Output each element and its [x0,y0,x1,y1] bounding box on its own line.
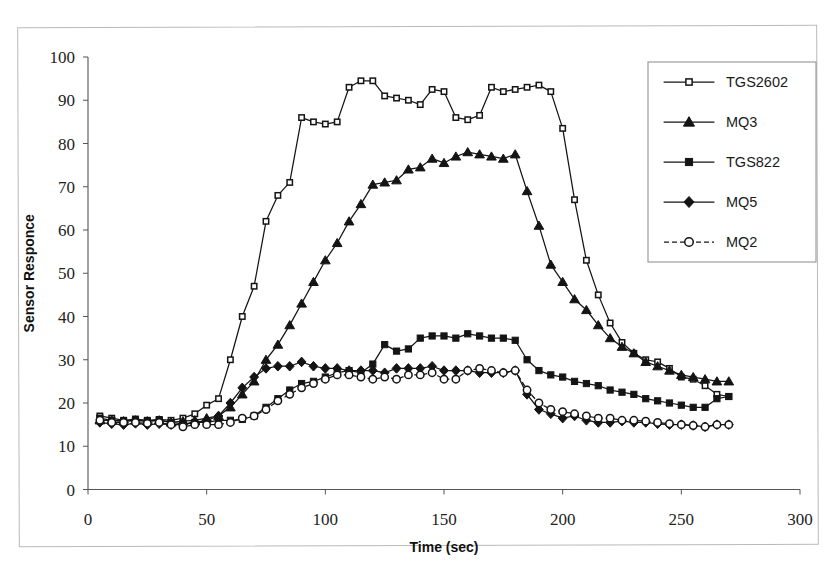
data-point [369,376,376,383]
data-point [488,335,494,341]
data-point [714,396,720,402]
sensor-response-chart: 0102030405060708090100 05010015020025030… [0,0,832,579]
data-point [415,163,425,171]
data-point [394,95,399,100]
y-tick-label: 80 [58,135,75,154]
data-point [381,373,388,380]
data-point [441,333,447,339]
data-point [572,197,577,202]
legend-label: MQ5 [726,194,757,210]
data-point [513,87,518,92]
legend-marker-open-square [686,79,692,85]
data-point [382,93,387,98]
data-point [167,421,174,428]
data-point [451,366,460,376]
data-point [500,335,506,341]
data-point [702,404,708,410]
data-point [156,419,163,426]
data-point [713,421,720,428]
data-point [547,406,554,413]
legend-label: TGS2602 [726,74,788,90]
data-point [510,150,520,158]
data-point [392,364,401,374]
data-point [250,412,257,419]
data-point [132,419,139,426]
data-point [606,414,613,421]
data-point [108,419,115,426]
x-tick-labels: 050100150200250300 [84,510,813,529]
data-point [524,357,530,363]
y-tick-label: 0 [67,481,76,500]
data-point [643,396,649,402]
data-point [429,87,434,92]
data-point [345,371,352,378]
data-point [536,82,541,87]
data-point [393,376,400,383]
data-point [274,397,281,404]
data-point [619,389,625,395]
data-point [440,376,447,383]
data-point [357,373,364,380]
data-point [120,419,127,426]
data-point [477,113,482,118]
data-point [215,421,222,428]
data-point [286,391,293,398]
data-point [631,391,637,397]
x-tick-label: 250 [669,510,695,529]
data-point [630,417,637,424]
y-tick-label: 50 [58,264,75,283]
data-point [464,367,471,374]
data-point [358,78,363,83]
data-point [441,89,446,94]
data-point [216,396,221,401]
data-point [275,193,280,198]
data-point [618,417,625,424]
data-point [285,361,294,371]
y-tick-label: 90 [58,91,75,110]
y-tick-label: 40 [58,308,75,327]
x-axis-title: Time (sec) [410,539,479,555]
data-point [427,154,437,162]
data-point [607,320,612,325]
data-point [642,417,649,424]
data-point [571,378,577,384]
data-point [534,221,544,229]
data-point [239,414,246,421]
data-point [310,380,317,387]
data-point [332,238,342,246]
series-line-tgs2602 [100,81,729,421]
data-point [666,400,672,406]
data-point [417,371,424,378]
data-point [321,256,331,264]
data-point [522,186,532,194]
data-point [297,357,306,367]
data-point [465,117,470,122]
data-point [417,335,423,341]
chart-legend: TGS2602MQ3TGS822MQ5MQ2 [648,62,816,262]
data-point [726,393,732,399]
data-point [453,115,458,120]
x-tick-label: 0 [84,510,93,529]
y-axis-title: Sensor Responce [21,214,37,332]
data-point [429,333,435,339]
data-point [558,277,568,285]
data-point [583,412,590,419]
data-point [488,367,495,374]
data-point [298,384,305,391]
data-point [203,421,210,428]
data-point [477,333,483,339]
legend-marker-open-circle [685,238,694,247]
data-point [583,380,589,386]
legend-label: MQ2 [726,234,757,250]
legend-label: MQ3 [726,114,757,130]
data-point [560,374,566,380]
data-point [570,295,580,303]
data-point [536,367,542,373]
series-group [95,78,734,432]
x-tick-label: 100 [313,510,339,529]
data-point [334,371,341,378]
data-point [548,372,554,378]
data-point [548,89,553,94]
data-point [571,410,578,417]
data-point [428,369,435,376]
